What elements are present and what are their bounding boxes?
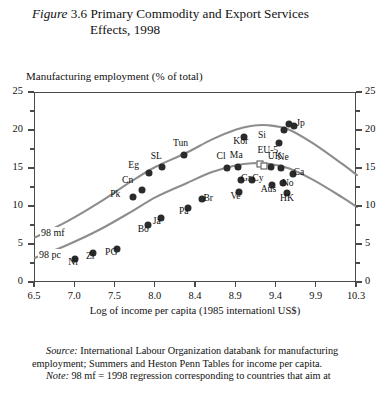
data-point-label-tun: Tun — [173, 138, 188, 148]
x-tick-8.0 — [154, 282, 155, 287]
data-point-label-cy: Cy — [252, 173, 263, 183]
y-tick-label-left-5: 5 — [1, 237, 23, 248]
y-tick-label-right-10: 10 — [365, 199, 387, 210]
data-point-label-zi: Zi — [86, 251, 95, 261]
x-tick-label-9.9: 9.9 — [301, 290, 331, 301]
curve-label-98pc: 98 pc — [38, 249, 62, 260]
data-point-label-ja: Ja — [153, 216, 161, 226]
y-tick-left-25 — [28, 91, 34, 92]
data-point-eg — [146, 169, 153, 176]
y-tick-left-10 — [28, 205, 34, 206]
y-tick-label-right-0: 0 — [365, 275, 387, 286]
y-tick-label-right-5: 5 — [365, 237, 387, 248]
y-tick-label-left-20: 20 — [1, 123, 23, 134]
x-tick-label-6.5: 6.5 — [19, 290, 49, 301]
y-tick-label-left-25: 25 — [1, 85, 23, 96]
data-point-label-pk: Pk — [110, 189, 120, 199]
x-tick-7.0 — [74, 282, 75, 287]
x-tick-9.4 — [275, 282, 276, 287]
y-tick-minor-right-12.5 — [356, 186, 360, 187]
data-point-label-aus: Aus — [261, 184, 276, 194]
y-tick-left-20 — [28, 129, 34, 130]
curve-label-98mf: 98 mf — [40, 227, 66, 238]
y-tick-right-0 — [356, 281, 362, 282]
regression-curves — [35, 93, 357, 283]
y-tick-left-5 — [28, 243, 34, 244]
footnote-source-line2: employment; Summers and Heston Penn Tabl… — [32, 358, 368, 371]
data-point-label-bo: Bo — [138, 224, 149, 234]
x-tick-label-8.9: 8.9 — [220, 290, 250, 301]
y-tick-right-25 — [356, 91, 362, 92]
data-point-label-ca: Ca — [294, 167, 305, 177]
y-tick-minor-left-2.5 — [30, 262, 34, 263]
data-point-label-no: No — [282, 178, 294, 188]
data-point-label-ni: Ni — [68, 257, 78, 267]
figure-title-line1: Primary Commodity and Export Services — [90, 6, 308, 21]
y-tick-minor-left-12.5 — [30, 186, 34, 187]
y-tick-right-20 — [356, 129, 362, 130]
data-point-label-hk: HK — [280, 193, 294, 203]
x-tick-7.5 — [114, 282, 115, 287]
plot-area: NiZiPGPkCnEgBoJaSLTunPaBrClMaKorGrVeCyEU… — [34, 92, 356, 282]
x-tick-label-7.0: 7.0 — [59, 290, 89, 301]
figure-container: Figure 3.6 Primary Commodity and Export … — [0, 0, 390, 395]
y-tick-label-left-15: 15 — [1, 161, 23, 172]
data-point-label-ma: Ma — [230, 150, 243, 160]
y-tick-minor-left-22.5 — [30, 110, 34, 111]
data-point-label-kor: Kor — [233, 136, 248, 146]
y-tick-minor-left-7.5 — [30, 224, 34, 225]
data-point-label-ve: Ve — [230, 191, 240, 201]
data-point-tun — [180, 152, 187, 159]
x-tick-6.5 — [33, 282, 34, 287]
data-point-ne — [277, 165, 284, 172]
x-tick-label-9.4: 9.4 — [261, 290, 291, 301]
y-tick-minor-right-7.5 — [356, 224, 360, 225]
data-point-eu5b — [260, 162, 267, 169]
footnote-source-line1: Source: International Labour Organizatio… — [32, 345, 368, 358]
data-point-sl — [158, 163, 165, 170]
y-tick-minor-right-2.5 — [356, 262, 360, 263]
footnote-note-line: Note: 98 mf = 1998 regression correspond… — [32, 370, 368, 383]
y-tick-right-15 — [356, 167, 362, 168]
data-point-jp3 — [280, 127, 287, 134]
data-point-uk — [267, 164, 274, 171]
x-tick-label-8.0: 8.0 — [140, 290, 170, 301]
y-tick-right-5 — [356, 243, 362, 244]
y-tick-label-right-20: 20 — [365, 123, 387, 134]
y-tick-label-left-10: 10 — [1, 199, 23, 210]
x-tick-label-8.4: 8.4 — [180, 290, 210, 301]
y-tick-label-left-0: 0 — [1, 275, 23, 286]
data-point-label-ne: Ne — [278, 152, 289, 162]
data-point-label-cn: Cn — [122, 175, 133, 185]
figure-title-line2: Effects, 1998 — [18, 22, 372, 38]
curve-98pc — [35, 163, 357, 258]
x-tick-8.9 — [235, 282, 236, 287]
x-axis-caption: Log of income per capita (1985 internati… — [0, 305, 390, 316]
data-point-ma — [234, 163, 241, 170]
figure-number: 3.6 — [71, 6, 87, 21]
figure-footnote: Source: International Labour Organizatio… — [32, 345, 368, 383]
data-point-label-br: Br — [203, 193, 213, 203]
y-tick-left-15 — [28, 167, 34, 168]
data-point-label-pa: Pa — [179, 206, 189, 216]
data-point-label-pg: PG — [105, 247, 117, 257]
y-tick-label-right-25: 25 — [365, 85, 387, 96]
figure-number-word: Figure — [32, 6, 67, 21]
data-point-label-cl: Cl — [217, 151, 226, 161]
data-point-cl — [223, 165, 230, 172]
curve-98mf — [35, 125, 357, 237]
footnote-note-text: 98 mf = 1998 regression corresponding to… — [69, 370, 331, 381]
x-tick-10.3 — [355, 282, 356, 287]
data-point-label-sl: SL — [151, 151, 162, 161]
y-axis-caption: Manufacturing employment (% of total) — [26, 70, 203, 82]
data-point-label-eg: Eg — [128, 160, 139, 170]
data-point-label-si: Si — [258, 130, 266, 140]
data-point-cn — [139, 187, 146, 194]
x-tick-8.4 — [194, 282, 195, 287]
data-point-jp2 — [285, 121, 292, 128]
figure-title: Figure 3.6 Primary Commodity and Export … — [18, 6, 372, 38]
data-point-si — [275, 140, 282, 147]
x-tick-label-7.5: 7.5 — [100, 290, 130, 301]
footnote-source-text: International Labour Organization databa… — [78, 345, 339, 356]
x-tick-9.9 — [315, 282, 316, 287]
